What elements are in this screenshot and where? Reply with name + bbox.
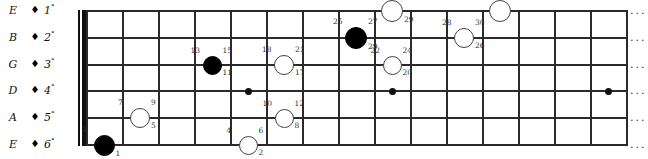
note-label-top-right: 9 xyxy=(151,99,156,107)
string-note-label: D xyxy=(0,84,26,97)
note-dot-open[interactable] xyxy=(130,108,150,128)
string-degree-number: 4 xyxy=(44,84,51,97)
string-degree-label: 1° xyxy=(44,3,74,17)
note-marker[interactable]: 131511 xyxy=(191,46,234,85)
note-dot-open[interactable] xyxy=(489,0,511,22)
fret-inlay-dot-9 xyxy=(389,88,396,95)
fretboard-diagram: E♦1°B♦2°G♦3°D♦4°A♦5°E♦6° 317951315114621… xyxy=(0,0,648,159)
note-label-top-right: 15 xyxy=(223,47,233,55)
string-degree-label: 2° xyxy=(44,30,74,44)
note-marker[interactable]: 3129 xyxy=(369,0,415,32)
note-dot-filled[interactable] xyxy=(345,27,367,49)
string-degree-number: 6 xyxy=(44,138,51,151)
fret-line-15 xyxy=(626,10,628,146)
note-marker[interactable]: 222420 xyxy=(371,46,414,85)
string-continuation-3: ... xyxy=(630,59,647,70)
note-label-top-right: 21 xyxy=(295,46,305,54)
note-label-top-left: 25 xyxy=(333,18,343,26)
note-dot-open[interactable] xyxy=(239,136,258,155)
string-note-label: G xyxy=(0,58,26,71)
note-dot-filled[interactable] xyxy=(94,135,115,156)
note-dot-open[interactable] xyxy=(383,56,402,75)
note-dot-open[interactable] xyxy=(275,109,294,128)
string-degree-label: 5° xyxy=(44,110,74,124)
string-degree-symbol: ° xyxy=(51,137,55,145)
string-degree-number: 5 xyxy=(44,111,51,124)
diamond-icon: ♦ xyxy=(26,112,44,122)
diamond-icon: ♦ xyxy=(26,85,44,95)
fret-line-13 xyxy=(554,10,556,146)
string-continuation-5: ... xyxy=(630,112,647,123)
note-dot-open[interactable] xyxy=(381,0,403,22)
string-note-label: A xyxy=(0,111,26,124)
string-continuation-4: ... xyxy=(630,85,647,96)
diamond-icon: ♦ xyxy=(26,59,44,69)
diamond-icon: ♦ xyxy=(26,5,44,15)
legend-row-string-3: G♦3° xyxy=(0,53,80,75)
note-label-top-left: 4 xyxy=(227,127,232,135)
note-dot-open[interactable] xyxy=(454,28,474,48)
string-degree-symbol: ° xyxy=(51,57,55,65)
note-label-bottom-right: 8 xyxy=(295,122,300,130)
note-label-top-right: 12 xyxy=(295,100,305,108)
note-label-top-left: 13 xyxy=(191,47,201,55)
string-note-label: B xyxy=(0,31,26,44)
string-continuation-2: ... xyxy=(630,32,647,43)
string-line-5 xyxy=(86,117,626,119)
string-degree-number: 1 xyxy=(44,4,51,17)
note-label-top-left: 28 xyxy=(442,19,452,27)
string-degree-symbol: ° xyxy=(51,110,55,118)
note-label-top-left: 10 xyxy=(263,100,273,108)
note-dot-filled[interactable] xyxy=(203,56,222,75)
note-label-bottom-right: 26 xyxy=(475,42,485,50)
string-degree-symbol: ° xyxy=(51,30,55,38)
string-legend: E♦1°B♦2°G♦3°D♦4°A♦5°E♦6° xyxy=(0,0,80,159)
note-label-top-right: 24 xyxy=(403,47,413,55)
fret-line-14 xyxy=(590,10,592,146)
note-label-top-left: 3 xyxy=(82,126,87,134)
legend-row-string-5: A♦5° xyxy=(0,106,80,128)
fretboard: 3179513151146218211710128252729222420312… xyxy=(86,10,626,146)
string-line-1 xyxy=(86,10,626,12)
note-label-bottom-right: 11 xyxy=(223,69,233,77)
note-marker[interactable]: 182117 xyxy=(262,45,306,85)
string-degree-symbol: ° xyxy=(51,3,55,11)
fret-inlay-dot-5 xyxy=(245,88,252,95)
string-degree-label: 6° xyxy=(44,137,74,151)
note-label-top-left: 7 xyxy=(118,99,123,107)
string-line-6 xyxy=(86,144,626,146)
string-degree-number: 3 xyxy=(44,58,51,71)
string-note-label: E xyxy=(0,4,26,17)
note-marker[interactable]: 32 xyxy=(477,0,523,32)
note-label-bottom-right: 20 xyxy=(403,69,413,77)
string-degree-label: 4° xyxy=(44,83,74,97)
diamond-icon: ♦ xyxy=(26,32,44,42)
fret-inlay-dot-15 xyxy=(605,88,612,95)
note-label-bottom-right: 1 xyxy=(116,150,121,158)
legend-row-string-4: D♦4° xyxy=(0,79,80,101)
note-marker[interactable]: 10128 xyxy=(263,99,306,138)
note-label-top-left: 18 xyxy=(262,46,272,54)
diamond-icon: ♦ xyxy=(26,139,44,149)
legend-row-string-1: E♦1° xyxy=(0,0,80,21)
string-line-4 xyxy=(86,90,626,92)
note-dot-open[interactable] xyxy=(274,55,294,75)
string-degree-number: 2 xyxy=(44,31,51,44)
string-degree-label: 3° xyxy=(44,57,74,71)
note-label-bottom-right: 29 xyxy=(404,16,414,24)
note-label-top-left: 22 xyxy=(371,47,381,55)
legend-row-string-6: E♦6° xyxy=(0,133,80,155)
string-degree-symbol: ° xyxy=(51,83,55,91)
note-label-bottom-right: 2 xyxy=(259,149,264,157)
string-note-label: E xyxy=(0,138,26,151)
note-label-bottom-right: 5 xyxy=(151,122,156,130)
nut-outer-line xyxy=(78,10,80,146)
string-continuation-1: ... xyxy=(630,5,647,16)
string-line-3 xyxy=(86,64,626,66)
string-continuation-6: ... xyxy=(630,139,647,150)
note-marker[interactable]: 795 xyxy=(118,98,162,138)
note-label-bottom-right: 17 xyxy=(295,69,305,77)
legend-row-string-2: B♦2° xyxy=(0,26,80,48)
